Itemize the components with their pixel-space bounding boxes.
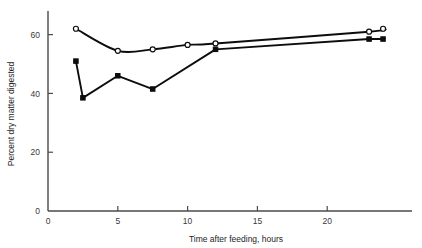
x-tick-label: 5 — [115, 216, 120, 226]
data-point-filled-square — [151, 87, 155, 91]
y-tick-label: 40 — [31, 89, 41, 99]
x-tick-label: 20 — [322, 216, 332, 226]
x-tick-label: 0 — [46, 216, 51, 226]
data-point-filled-square — [367, 37, 371, 41]
data-point-open-circle — [185, 42, 190, 47]
data-point-open-circle — [213, 41, 218, 46]
data-point-filled-square — [81, 96, 85, 100]
data-point-open-circle — [115, 48, 120, 53]
series-layer — [73, 26, 385, 100]
data-point-filled-square — [213, 47, 217, 51]
y-tick-label: 60 — [31, 30, 41, 40]
x-tick-label: 15 — [253, 216, 263, 226]
y-tick-label: 20 — [31, 147, 41, 157]
data-point-open-circle — [150, 47, 155, 52]
y-tick-label: 0 — [35, 206, 40, 216]
y-axis-title: Percent dry matter digested — [6, 62, 16, 167]
x-axis-title: Time after feeding, hours — [189, 234, 283, 244]
data-point-open-circle — [381, 26, 386, 31]
x-tick-label: 10 — [183, 216, 193, 226]
chart-figure: 051015200204060 Time after feeding, hour… — [0, 0, 422, 248]
series-filled-square-series — [74, 37, 386, 100]
data-point-filled-square — [116, 74, 120, 78]
data-point-filled-square — [74, 59, 78, 63]
data-point-open-circle — [367, 29, 372, 34]
data-point-filled-square — [381, 37, 385, 41]
series-path — [76, 39, 383, 98]
data-point-open-circle — [73, 26, 78, 31]
line-chart-svg: 051015200204060 Time after feeding, hour… — [0, 0, 422, 248]
